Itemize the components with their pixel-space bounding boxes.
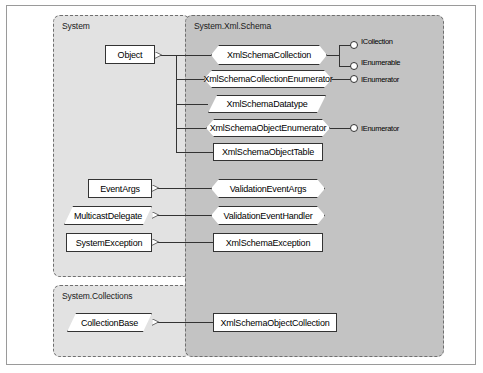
interface-label-ienumerator-object: IEnumerator xyxy=(361,124,399,133)
interface-lollipop-ienumerator-collection[interactable] xyxy=(350,75,358,83)
package-system-collections-label: System.Collections xyxy=(62,291,132,301)
class-node-xml-schema-object-collection[interactable]: XmlSchemaObjectCollection xyxy=(213,313,337,332)
package-system-label: System xyxy=(62,21,90,31)
class-node-collection-base[interactable]: CollectionBase xyxy=(67,313,152,332)
interface-label-ienumerator-collection: IEnumerator xyxy=(361,75,399,84)
class-label-xml-schema-object-enumerator: XmlSchemaObjectEnumerator xyxy=(210,123,327,133)
interface-lollipop-ienumerator-object[interactable] xyxy=(350,124,358,132)
class-label-xml-schema-datatype: XmlSchemaDatatype xyxy=(226,99,307,109)
class-label-xml-schema-object-table: XmlSchemaObjectTable xyxy=(222,147,314,157)
class-node-xml-schema-object-table[interactable]: XmlSchemaObjectTable xyxy=(213,143,323,161)
class-diagram: System System.Collections System.Xml.Sch… xyxy=(0,0,483,373)
class-node-system-exception[interactable]: SystemException xyxy=(66,233,152,252)
class-label-multicast-delegate: MulticastDelegate xyxy=(74,211,142,221)
class-label-collection-base: CollectionBase xyxy=(81,318,138,328)
class-node-event-args[interactable]: EventArgs xyxy=(88,179,152,198)
class-label-validation-event-args: ValidationEventArgs xyxy=(230,184,307,194)
class-node-xml-schema-object-enumerator[interactable]: XmlSchemaObjectEnumerator xyxy=(206,119,330,137)
class-node-validation-event-args[interactable]: ValidationEventArgs xyxy=(211,179,325,198)
class-node-xml-schema-collection-enumerator[interactable]: XmlSchemaCollectionEnumerator xyxy=(204,70,332,88)
class-label-xml-schema-collection: XmlSchemaCollection xyxy=(227,50,311,60)
interface-lollipop-ienumerable[interactable] xyxy=(350,62,358,70)
class-label-validation-event-handler: ValidationEventHandler xyxy=(224,211,313,221)
interface-label-ienumerable: IEnumerable xyxy=(361,58,400,67)
class-node-xml-schema-datatype[interactable]: XmlSchemaDatatype xyxy=(208,95,326,113)
class-label-system-exception: SystemException xyxy=(76,238,143,248)
class-node-xml-schema-exception[interactable]: XmlSchemaException xyxy=(213,233,323,252)
class-node-validation-event-handler[interactable]: ValidationEventHandler xyxy=(211,206,325,225)
class-label-event-args: EventArgs xyxy=(100,184,140,194)
class-node-object[interactable]: Object xyxy=(105,45,155,64)
class-label-object: Object xyxy=(118,50,143,60)
interface-label-icollection: ICollection xyxy=(361,37,393,46)
package-xml-schema-label: System.Xml.Schema xyxy=(194,21,271,31)
class-node-xml-schema-collection[interactable]: XmlSchemaCollection xyxy=(211,45,327,65)
class-label-xml-schema-object-collection: XmlSchemaObjectCollection xyxy=(220,318,329,328)
class-node-multicast-delegate[interactable]: MulticastDelegate xyxy=(64,206,152,225)
class-label-xml-schema-exception: XmlSchemaException xyxy=(226,238,310,248)
class-label-xml-schema-collection-enumerator: XmlSchemaCollectionEnumerator xyxy=(203,74,332,84)
interface-lollipop-icollection[interactable] xyxy=(350,41,358,49)
